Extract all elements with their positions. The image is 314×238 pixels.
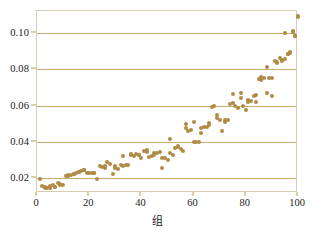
scatter-point	[244, 108, 248, 112]
scatter-point	[288, 50, 292, 54]
scatter-point	[113, 164, 117, 168]
scatter-point	[53, 185, 57, 189]
scatter-points-layer	[37, 11, 296, 191]
x-tick-label-20: 20	[83, 197, 94, 208]
scatter-point	[72, 172, 76, 176]
scatter-point	[184, 122, 188, 126]
scatter-point	[296, 15, 300, 19]
scatter-point	[265, 91, 269, 95]
x-tick-label-40: 40	[135, 197, 146, 208]
scatter-point	[145, 148, 149, 152]
scatter-point	[111, 172, 115, 176]
scatter-point	[220, 129, 224, 133]
scatter-point	[197, 140, 201, 144]
scatter-point	[129, 152, 133, 156]
scatter-point	[158, 150, 162, 154]
scatter-point	[212, 104, 216, 108]
scatter-point	[160, 166, 164, 170]
scatter-point	[239, 96, 243, 100]
scatter-point	[171, 153, 175, 157]
scatter-point	[103, 164, 107, 168]
x-tick-label-0: 0	[33, 197, 38, 208]
scatter-point	[246, 98, 250, 102]
y-tick-label-0.08: 0.08	[10, 63, 29, 74]
scatter-point	[176, 144, 180, 148]
scatter-point	[38, 177, 42, 181]
scatter-point	[218, 118, 222, 122]
y-axis: 0.020.040.060.080.10	[0, 10, 36, 192]
y-tick-label-0.04: 0.04	[10, 136, 29, 147]
scatter-point	[236, 106, 240, 110]
scatter-point	[283, 31, 287, 35]
scatter-point	[92, 171, 96, 175]
scatter-point	[293, 34, 297, 38]
scatter-point	[259, 75, 263, 79]
x-tick-mark	[244, 192, 245, 196]
x-tick-mark	[192, 192, 193, 196]
plot-area	[36, 10, 297, 192]
scatter-point	[223, 118, 227, 122]
x-tick-mark	[297, 192, 298, 196]
scatter-point	[58, 183, 62, 187]
scatter-point	[43, 186, 47, 190]
scatter-point	[192, 120, 196, 124]
y-tick-label-0.10: 0.10	[10, 26, 29, 37]
scatter-point	[108, 162, 112, 166]
x-tick-mark	[140, 192, 141, 196]
scatter-point	[95, 177, 99, 181]
scatter-point	[137, 153, 141, 157]
scatter-point	[160, 156, 164, 160]
scatter-point	[270, 76, 274, 80]
scatter-point	[126, 163, 130, 167]
x-tick-label-60: 60	[187, 197, 198, 208]
scatter-point	[283, 57, 287, 61]
scatter-chart-figure: 0.020.040.060.080.10 020406080100 组	[0, 0, 314, 238]
scatter-point	[231, 92, 235, 96]
scatter-point	[207, 121, 211, 125]
scatter-point	[254, 93, 258, 97]
scatter-point	[241, 104, 245, 108]
x-axis-title: 组	[0, 212, 314, 228]
x-axis: 020406080100	[36, 192, 297, 212]
scatter-point	[121, 154, 125, 158]
y-tick-label-0.02: 0.02	[10, 172, 29, 183]
x-tick-label-100: 100	[289, 197, 305, 208]
x-tick-mark	[88, 192, 89, 196]
scatter-point	[181, 149, 185, 153]
y-tick-label-0.06: 0.06	[10, 99, 29, 110]
scatter-point	[275, 60, 279, 64]
scatter-point	[82, 168, 86, 172]
scatter-point	[215, 113, 219, 117]
scatter-point	[168, 137, 172, 141]
scatter-point	[239, 91, 243, 95]
scatter-point	[189, 128, 193, 132]
scatter-point	[77, 170, 81, 174]
scatter-point	[166, 158, 170, 162]
scatter-point	[254, 100, 258, 104]
scatter-point	[265, 65, 269, 69]
scatter-point	[66, 173, 70, 177]
x-tick-mark	[36, 192, 37, 196]
scatter-point	[152, 153, 156, 157]
x-tick-label-80: 80	[240, 197, 251, 208]
scatter-point	[270, 94, 274, 98]
scatter-point	[48, 186, 52, 190]
scatter-point	[199, 131, 203, 135]
